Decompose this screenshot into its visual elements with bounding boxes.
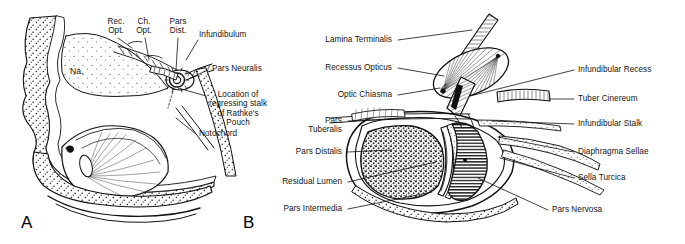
label-ch-opt-line2: Opt. [128,26,160,35]
label-rathkes-line2: regressing stalk [206,99,270,108]
label-sella-turcica: Sella Turcica [578,173,626,182]
label-recessus-opticus: Recessus Opticus [246,63,392,72]
label-tuber-cinereum: Tuber Cinereum [578,94,638,103]
label-pars-tuberalis: Pars Tuberalis [250,116,342,135]
label-lamina-terminalis: Lamina Terminalis [246,35,392,44]
label-pars-nervosa: Pars Nervosa [552,205,602,214]
label-ch-opt: Ch. Opt. [128,17,160,36]
label-diaphragma-sellae: Diaphragma Sellae [578,147,648,156]
label-infundibulum: Infundibulum [199,30,246,39]
label-pars-distalis: Pars Distalis [236,147,342,156]
label-optic-chiasma: Optic Chiasma [246,90,392,99]
label-pars-tuberalis-line1: Pars [250,116,342,125]
label-notochord: Notochord [199,129,237,138]
label-infundibular-stalk: Infundibular Stalk [578,119,642,128]
label-infundibular-recess: Infundibular Recess [578,65,651,74]
panel-letter-a: A [21,213,32,233]
label-pars-tuberalis-line2: Tuberalis [250,125,342,134]
label-pars-dist: Pars Dist. [160,17,196,36]
label-ch-opt-line1: Ch. [128,17,160,26]
panel-b-artwork [330,14,604,222]
label-pars-intermedia: Pars Intermedia [226,204,342,213]
label-pars-dist-line2: Dist. [160,26,196,35]
label-pars-dist-line1: Pars [160,17,196,26]
panel-letter-b: B [243,213,254,233]
anatomical-figure: Rec. Opt. Ch. Opt. Pars Dist. Infundibul… [0,0,685,244]
label-residual-lumen: Residual Lumen [226,177,342,186]
label-na: Na. [70,66,83,76]
panel-a-artwork [23,16,236,222]
